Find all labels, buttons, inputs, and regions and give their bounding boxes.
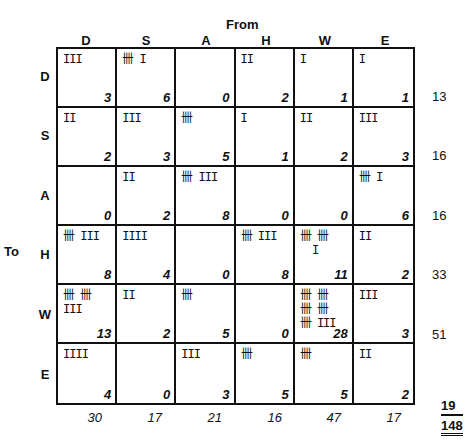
cell-count: 11 [334,267,348,282]
tally-marks: II [63,111,75,125]
cell-count: 5 [341,387,348,402]
matrix-cell: 0 [236,167,295,226]
tally-marks: 卌 [181,111,192,125]
tally-marks: III [122,111,141,125]
row-header-s: S [37,128,53,143]
column-header-w: W [295,33,355,48]
matrix-cell: 卌 III8 [176,167,235,226]
matrix-cell: 卌 卌 III13 [58,285,117,344]
matrix-cell: 卌 I6 [354,167,413,226]
tally-marks: 卌 III [63,229,99,243]
tally-marks: IIII [63,347,88,361]
row-header-w: W [37,307,53,322]
row-total: 16 [432,208,466,223]
tally-marks: 卌 [300,347,311,361]
cell-count: 2 [163,326,170,341]
matrix-cell: 卌5 [176,108,235,167]
tally-marks: III [181,347,200,361]
cell-count: 2 [402,267,409,282]
matrix-cell: III3 [176,344,235,403]
matrix-cell: 0 [117,344,176,403]
matrix-cell: III3 [58,49,117,108]
cell-count: 0 [163,387,170,402]
column-total: 17 [102,410,162,425]
cell-count: 5 [222,149,229,164]
cell-count: 0 [222,267,229,282]
cell-count: 4 [104,387,111,402]
cell-count: 8 [104,267,111,282]
last-row-total: 19 [441,398,463,416]
column-header-h: H [236,33,296,48]
matrix-cell: I1 [354,49,413,108]
column-total: 16 [222,410,282,425]
matrix-cell: III3 [117,108,176,167]
column-header-e: E [355,33,415,48]
matrix-cell: I1 [295,49,354,108]
matrix-cell: IIII4 [58,344,117,403]
tally-marks: 卌 [241,347,252,361]
matrix-cell: 卌 III8 [236,226,295,285]
cell-count: 8 [281,267,288,282]
matrix-cell: 卌 卌 I11 [295,226,354,285]
tally-marks: IIII [122,229,147,243]
cell-count: 2 [163,208,170,223]
matrix-cell: 卌 I6 [117,49,176,108]
column-header-a: A [176,33,236,48]
matrix-cell: 0 [176,226,235,285]
tally-marks: II [300,111,312,125]
tally-marks: I [359,52,365,66]
cell-count: 3 [163,149,170,164]
row-header-a: A [37,188,53,203]
cell-count: 0 [281,208,288,223]
tally-marks: II [122,170,134,184]
tally-marks: 卌 I [122,52,145,66]
matrix-cell: I1 [236,108,295,167]
tally-marks: II [359,347,371,361]
tally-marks: 卌 卌 III [63,288,91,316]
cell-count: 1 [402,90,409,105]
transition-matrix: III3卌 I60II2I1I1II2III3卌5I1II2III30II2卌 … [56,47,415,405]
cell-count: 2 [341,149,348,164]
matrix-cell: II2 [236,49,295,108]
cell-count: 3 [402,149,409,164]
tally-marks: 卌 卌 卌 卌 卌 III [300,288,336,330]
matrix-cell: II2 [354,226,413,285]
matrix-cell: 卌5 [236,344,295,403]
matrix-cell: III3 [354,108,413,167]
matrix-cell: 卌 III8 [58,226,117,285]
tally-marks: III [63,52,82,66]
row-total: 33 [432,267,466,282]
cell-count: 3 [222,387,229,402]
column-total: 47 [281,410,341,425]
matrix-cell: II2 [117,285,176,344]
column-total: 17 [341,410,401,425]
matrix-cell: II2 [117,167,176,226]
matrix-cell: 卌5 [176,285,235,344]
matrix-cell: 0 [58,167,117,226]
row-total: 51 [432,327,466,342]
matrix-cell: 卌5 [295,344,354,403]
cell-count: 3 [402,326,409,341]
cell-count: 4 [163,267,170,282]
cell-count: 0 [222,90,229,105]
grand-total: 148 [441,418,463,436]
cell-count: 28 [333,326,347,341]
matrix-cell: 0 [236,285,295,344]
tally-marks: 卌 [181,288,192,302]
tally-marks: 卌 卌 I [300,229,328,257]
cell-count: 2 [281,90,288,105]
matrix-cell: II2 [354,344,413,403]
matrix-cell: 0 [295,167,354,226]
matrix-cell: III3 [354,285,413,344]
row-total: 16 [432,148,466,163]
column-header-d: D [56,33,116,48]
matrix-cell: 0 [176,49,235,108]
column-total: 21 [162,410,222,425]
matrix-cell: 卌 卌 卌 卌 卌 III28 [295,285,354,344]
cell-count: 6 [163,90,170,105]
cell-count: 3 [104,90,111,105]
column-header-s: S [116,33,176,48]
tally-marks: 卌 III [241,229,277,243]
tally-marks: 卌 III [181,170,217,184]
cell-count: 13 [97,326,111,341]
